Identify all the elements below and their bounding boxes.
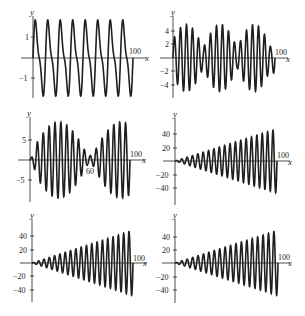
y-axis-label: y (172, 109, 177, 119)
curve (32, 232, 133, 295)
y-tick-label: 20 (162, 246, 170, 255)
y-tick-label: 4 (165, 27, 169, 36)
x-tick-100: 100 (129, 47, 141, 56)
x-tick-100: 100 (277, 151, 289, 160)
y-tick-label: 20 (162, 144, 170, 153)
curve (173, 25, 275, 92)
x-tick-100: 100 (275, 48, 287, 57)
y-tick-label: −40 (156, 286, 169, 295)
panel-bottom-right: y x 100 40 20 −20 −40 (156, 210, 292, 303)
y-tick-label: −4 (160, 81, 169, 90)
x-axis-label: x (144, 53, 149, 63)
y-tick-label: −1 (19, 74, 28, 83)
panel-middle-right: y x 100 40 20 −20 −40 (156, 109, 292, 205)
y-tick-label: 40 (162, 233, 170, 242)
x-tick-100: 100 (133, 254, 145, 263)
y-axis-label: y (170, 7, 175, 17)
y-tick-label: −40 (13, 286, 26, 295)
y-tick-label: −20 (156, 273, 169, 282)
x-tick-100: 100 (130, 150, 142, 159)
panel-middle-left: y x 100 60 5 −5 (16, 108, 146, 202)
y-tick-label: 1 (25, 33, 29, 42)
y-tick-label: −5 (16, 176, 25, 185)
y-axis-label: y (172, 210, 177, 220)
y-tick-label: 5 (22, 136, 26, 145)
panel-bottom-left: y x 100 40 20 −20 −40 (13, 210, 147, 302)
y-tick-label: 40 (162, 130, 170, 139)
y-tick-label: −20 (156, 171, 169, 180)
panel-top-left: y x 100 1 −1 (19, 7, 149, 98)
y-axis-label: y (29, 7, 34, 17)
y-tick-label: −40 (156, 184, 169, 193)
chart-grid: y x 100 1 −1 y x 100 4 2 −2 −4 y x 100 6… (0, 0, 305, 316)
curve (175, 232, 278, 295)
x-annotation-60: 60 (86, 167, 94, 176)
y-tick-label: 2 (165, 40, 169, 49)
y-axis-label: y (26, 108, 31, 118)
y-tick-label: −2 (160, 67, 169, 76)
x-tick-100: 100 (278, 253, 290, 262)
y-tick-label: −20 (13, 272, 26, 281)
y-axis-label: y (29, 210, 34, 220)
y-tick-label: 40 (19, 232, 27, 241)
curve (175, 130, 277, 193)
curve (30, 122, 130, 198)
y-tick-label: 20 (19, 246, 27, 255)
panel-top-right: y x 100 4 2 −2 −4 (160, 7, 290, 98)
